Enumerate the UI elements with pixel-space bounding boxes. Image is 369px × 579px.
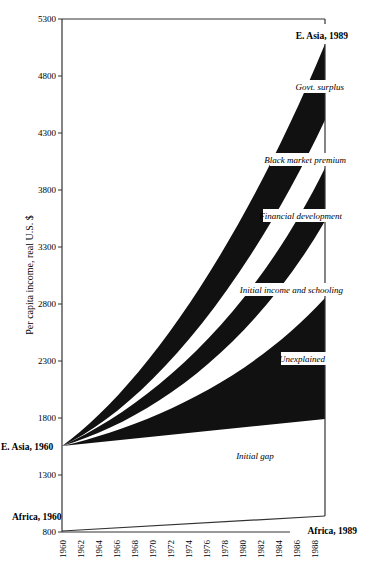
africa-1960-label: Africa, 1960 [12,512,62,522]
financial-development-label: Financial development [258,211,342,221]
bands [62,44,325,446]
y-tick-label: 4800 [38,71,57,81]
initial-income-schooling-label: Initial income and schooling [239,285,344,295]
x-tick-label: 1980 [238,540,248,559]
income-gap-chart: 5300 4800 4300 3800 3300 2800 2300 1800 … [0,0,369,579]
y-tick-label: 2300 [38,356,57,366]
y-tick-labels: 5300 4800 4300 3800 3300 2800 2300 1800 … [38,14,57,537]
y-tick-label: 1300 [38,470,57,480]
east-asia-1960-label: E. Asia, 1960 [1,442,54,452]
y-tick-label: 3800 [38,185,57,195]
east-asia-1989-label: E. Asia, 1989 [296,31,349,41]
x-tick-label: 1966 [112,540,122,559]
africa-line [62,516,325,531]
unexplained-label: Unexplained [279,354,325,364]
x-tick-label: 1968 [130,540,140,559]
y-axis-title: Per capita income, real U.S. $ [24,215,35,334]
x-tick-label: 1976 [202,540,212,559]
y-tick-label: 5300 [38,14,57,24]
x-tick-label: 1972 [166,540,176,558]
x-tick-label: 1986 [292,540,302,559]
x-tick-labels: 1960 1962 1964 1966 1968 1970 1972 1974 … [58,540,320,559]
black-market-premium-label: Black market premium [264,155,346,165]
x-tick-label: 1974 [184,540,194,559]
x-tick-label: 1988 [310,540,320,559]
africa-1989-label: Africa, 1989 [307,526,357,536]
x-tick-label: 1970 [148,540,158,559]
y-tick-label: 800 [43,527,57,537]
x-tick-label: 1964 [94,540,104,559]
x-tick-label: 1982 [256,540,266,558]
x-tick-label: 1978 [220,540,230,559]
y-tick-label: 1800 [38,413,57,423]
y-tick-label: 3300 [38,242,57,252]
x-tick-label: 1960 [58,540,68,559]
y-tick-label: 4300 [38,128,57,138]
initial-gap-label: Initial gap [235,451,274,461]
govt-surplus-label: Govt. surplus [295,82,344,92]
x-tick-label: 1984 [274,540,284,559]
x-tick-label: 1962 [76,540,86,558]
y-tick-label: 2800 [38,299,57,309]
